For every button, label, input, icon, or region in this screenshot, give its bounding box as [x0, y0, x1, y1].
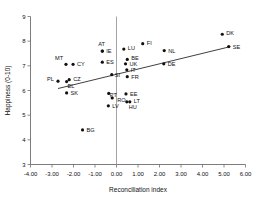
- x-tick-label: 6.00: [240, 171, 252, 177]
- regression-line: [58, 47, 230, 89]
- data-points: MTCYPLELCZSKBGATIEESPTROLVSILUBEUKITFREE…: [47, 30, 240, 133]
- data-point-label: NL: [168, 48, 175, 54]
- data-point-marker: [111, 96, 114, 99]
- data-point-marker: [125, 68, 128, 71]
- data-point-label: AT: [98, 41, 105, 47]
- data-point-marker: [126, 58, 129, 61]
- plot-area: MTCYPLELCZSKBGATIEESPTROLVSILUBEUKITFREE…: [0, 0, 258, 200]
- x-tick-label: -4.00: [24, 171, 38, 177]
- data-point-label: EE: [130, 91, 138, 97]
- x-tick-label: 3.00: [175, 171, 187, 177]
- data-point-label: ES: [106, 59, 114, 65]
- data-point-label: LU: [128, 45, 135, 51]
- data-point-marker: [56, 80, 59, 83]
- x-tick-label: 2.00: [154, 171, 166, 177]
- x-tick-label: 4.00: [197, 171, 209, 177]
- data-point-label: FR: [131, 74, 138, 80]
- data-point-marker: [71, 63, 74, 66]
- data-point-marker: [227, 45, 230, 48]
- data-point-label: CZ: [73, 76, 81, 82]
- y-tick-label: 9: [22, 14, 26, 20]
- data-point-marker: [141, 42, 144, 45]
- y-tick-label: 3: [22, 162, 26, 168]
- data-point-marker: [110, 73, 113, 76]
- data-point-label: BG: [87, 127, 95, 133]
- data-point-label: HU: [129, 104, 137, 110]
- data-point-label: SK: [71, 90, 79, 96]
- y-tick-label: 5: [22, 112, 26, 118]
- data-point-marker: [107, 104, 110, 107]
- data-point-label: IT: [131, 67, 137, 73]
- x-tick-label: -3.00: [45, 171, 59, 177]
- data-point-marker: [101, 61, 104, 64]
- x-tick-label: -1.00: [88, 171, 102, 177]
- x-tick-label: 1.00: [132, 171, 144, 177]
- data-point-marker: [124, 92, 127, 95]
- y-tick-label: 8: [22, 38, 26, 44]
- data-point-marker: [124, 62, 127, 65]
- data-point-marker: [162, 62, 165, 65]
- data-point-label: PL: [47, 76, 54, 82]
- data-point-marker: [126, 75, 129, 78]
- data-point-marker: [64, 63, 67, 66]
- x-tick-label: 0.00: [111, 171, 123, 177]
- data-point-marker: [101, 49, 104, 52]
- data-point-label: LV: [112, 103, 119, 109]
- data-point-label: CY: [77, 61, 85, 67]
- data-point-marker: [68, 78, 71, 81]
- data-point-marker: [163, 49, 166, 52]
- x-axis-title: Reconciliation index: [109, 186, 168, 193]
- data-point-label: DE: [168, 61, 176, 67]
- data-point-marker: [65, 91, 68, 94]
- data-point-label: SI: [115, 72, 121, 78]
- data-point-label: DK: [226, 30, 234, 36]
- data-point-marker: [122, 47, 125, 50]
- y-axis-title: Happiness (0-10): [4, 66, 12, 116]
- data-point-label: SE: [233, 44, 241, 50]
- data-point-label: EL: [68, 83, 75, 89]
- data-point-marker: [221, 33, 224, 36]
- scatter-chart: MTCYPLELCZSKBGATIEESPTROLVSILUBEUKITFREE…: [0, 0, 258, 200]
- data-point-label: MT: [55, 55, 64, 61]
- x-tick-label: -2.00: [67, 171, 81, 177]
- x-tick-label: 5.00: [218, 171, 230, 177]
- data-point-label: FI: [147, 40, 152, 46]
- trend-line: [58, 47, 230, 89]
- data-point-marker: [81, 128, 84, 131]
- y-tick-label: 4: [22, 137, 26, 143]
- data-point-label: IE: [106, 48, 112, 54]
- y-tick-label: 7: [22, 63, 26, 69]
- y-tick-label: 6: [22, 88, 26, 94]
